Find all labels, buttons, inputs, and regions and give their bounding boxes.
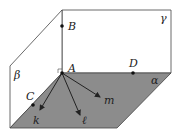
point-A (60, 71, 64, 75)
label-B: B (67, 20, 76, 33)
label-beta: β (13, 69, 20, 82)
label-D: D (128, 57, 138, 70)
label-k: k (33, 114, 40, 127)
diagram-svg: γ β α A B C D k ℓ m (0, 0, 183, 139)
label-m: m (104, 94, 114, 107)
plane-gamma (62, 10, 171, 73)
label-gamma: γ (160, 12, 167, 25)
point-C (31, 103, 35, 107)
geometry-diagram: γ β α A B C D k ℓ m (0, 0, 183, 139)
label-alpha: α (151, 74, 159, 87)
label-l: ℓ (82, 114, 87, 127)
point-B (60, 24, 64, 28)
label-A: A (67, 62, 76, 75)
point-D (131, 71, 135, 75)
label-C: C (26, 90, 35, 103)
